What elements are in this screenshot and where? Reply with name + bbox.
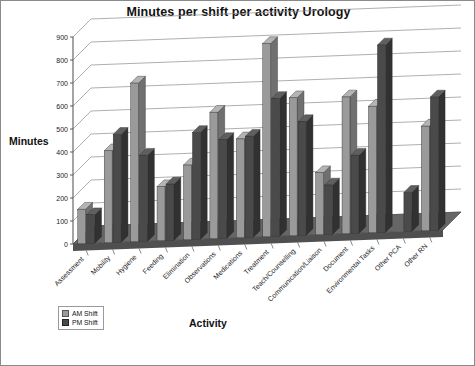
legend-swatch-pm-icon xyxy=(62,319,69,326)
bar-pm-shift-0 xyxy=(87,208,102,244)
bar-pm-shift-6 xyxy=(245,129,260,237)
svg-text:0: 0 xyxy=(64,241,68,248)
svg-text:500: 500 xyxy=(56,126,68,133)
bar-pm-shift-1 xyxy=(113,128,128,243)
svg-text:600: 600 xyxy=(56,103,68,110)
bar-pm-shift-10 xyxy=(351,148,366,233)
x-axis-label-0: Assessment xyxy=(53,255,85,287)
svg-text:400: 400 xyxy=(56,149,68,156)
legend-item-am[interactable]: AM Shift xyxy=(62,309,98,318)
svg-text:700: 700 xyxy=(56,80,68,87)
legend-label-am: AM Shift xyxy=(72,309,98,318)
bar-pm-shift-7 xyxy=(272,92,287,237)
legend-swatch-am-icon xyxy=(62,310,69,317)
svg-text:800: 800 xyxy=(56,57,68,64)
bar-pm-shift-13 xyxy=(430,90,445,230)
bar-pm-shift-11 xyxy=(377,38,392,232)
x-axis-label-11: Environmental Tasks xyxy=(325,244,376,295)
x-axis-label-9: Communication/Liaison xyxy=(266,246,322,302)
bar-pm-shift-5 xyxy=(219,133,234,239)
svg-text:200: 200 xyxy=(56,195,68,202)
bar-pm-shift-2 xyxy=(140,148,155,241)
svg-text:900: 900 xyxy=(56,34,68,41)
x-axis-label-2: Hygiene xyxy=(115,253,139,277)
x-axis-label-6: Medications xyxy=(212,249,244,281)
x-axis-label-13: Other RN xyxy=(403,242,429,268)
legend-item-pm[interactable]: PM Shift xyxy=(62,318,98,327)
bar-pm-shift-4 xyxy=(192,126,207,240)
bar-pm-shift-8 xyxy=(298,115,313,236)
svg-text:100: 100 xyxy=(56,218,68,225)
chart-legend: AM Shift PM Shift xyxy=(58,306,104,330)
svg-text:300: 300 xyxy=(56,172,68,179)
x-axis-label-3: Feeding xyxy=(141,252,165,276)
chart-window: Minutes per shift per activity Urology M… xyxy=(0,0,475,366)
bar-pm-shift-9 xyxy=(325,178,340,234)
legend-label-pm: PM Shift xyxy=(72,318,98,327)
x-axis-label-1: Mobility xyxy=(90,254,113,277)
bar-pm-shift-3 xyxy=(166,177,181,240)
x-axis-label-12: Other PCA xyxy=(373,243,402,272)
bar-pm-shift-12 xyxy=(404,186,419,232)
